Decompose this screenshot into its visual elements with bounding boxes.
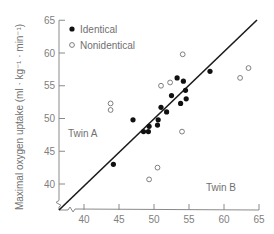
nonidentical-point [180,52,185,57]
identical-point [158,105,163,110]
identical-point [207,69,212,74]
legend-nonidentical-marker [70,43,75,48]
identical-point [183,88,188,93]
scatter-chart: 404550556065404550556065 Identical Nonid… [0,0,274,234]
data-points [108,52,251,182]
legend-identical-label: Identical [80,24,117,35]
identical-point [146,129,151,134]
legend-nonidentical-label: Nonidentical [80,40,135,51]
y-tick-label: 55 [44,80,56,91]
identical-point [155,122,160,127]
x-tick-label: 60 [218,214,230,225]
nonidentical-point [108,101,113,106]
legend-identical-marker [69,26,74,31]
nonidentical-point [180,129,185,134]
nonidentical-point [108,108,113,113]
x-tick-label: 50 [148,214,160,225]
identical-point [156,117,161,122]
nonidentical-point [168,80,173,85]
y-axis-line [56,20,61,210]
identical-point [184,96,189,101]
identical-point [147,124,152,129]
legend: Identical Nonidentical [69,24,135,51]
nonidentical-point [159,83,164,88]
y-axis-title: Maximal oxygen uptake (ml · kg⁻¹ · min⁻¹… [14,24,25,210]
y-tick-label: 50 [44,113,56,124]
identical-point [181,79,186,84]
identical-point [141,129,146,134]
x-tick-label: 40 [78,214,90,225]
identical-point [164,109,169,114]
twin-a-label: Twin A [68,128,98,139]
x-tick-label: 55 [183,214,195,225]
y-tick-label: 45 [44,146,56,157]
twin-b-label: Twin B [206,182,236,193]
identical-point [169,93,174,98]
y-tick-label: 65 [44,15,56,26]
identical-point [111,162,116,167]
x-tick-label: 45 [113,214,125,225]
identical-point [175,75,180,80]
nonidentical-point [238,75,243,80]
nonidentical-point [246,66,251,71]
nonidentical-point [155,165,160,170]
identical-point [130,117,135,122]
y-tick-label: 60 [44,48,56,59]
x-tick-label: 65 [253,214,265,225]
identical-point [178,101,183,106]
nonidentical-point [147,177,152,182]
y-tick-label: 40 [44,179,56,190]
x-axis-line [59,207,259,212]
